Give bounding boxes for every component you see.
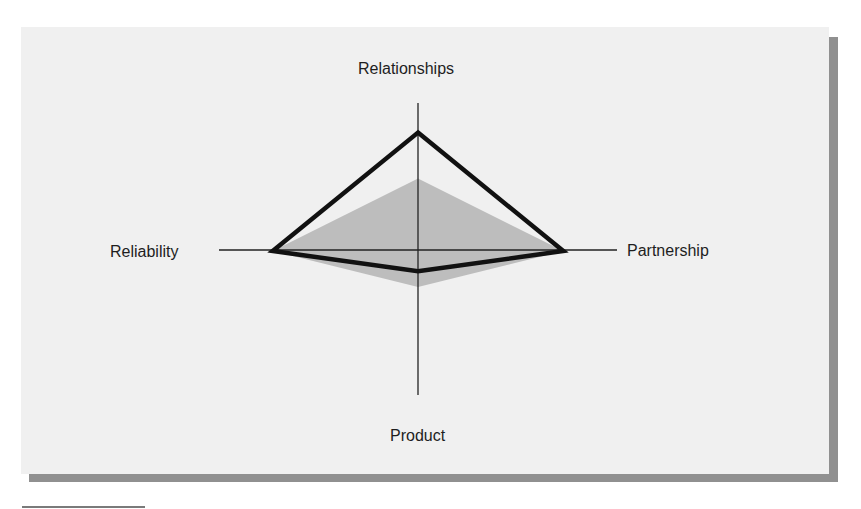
axis-label-product: Product <box>390 428 445 444</box>
axis-label-partnership: Partnership <box>627 243 709 259</box>
axis-label-reliability: Reliability <box>110 244 178 260</box>
axis-label-relationships: Relationships <box>358 61 454 77</box>
footnote-rule <box>22 506 145 508</box>
